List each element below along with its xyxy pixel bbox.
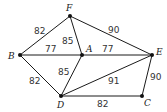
edge-b-d [20, 55, 61, 96]
vertex-label-c: C [144, 98, 151, 108]
edge-weight-f-a: 85 [62, 36, 73, 46]
edge-weight-d-e: 91 [108, 76, 119, 86]
edge-weight-d-c: 82 [97, 99, 108, 109]
edge-d-e [61, 55, 152, 96]
edge-weight-a-e: 77 [102, 44, 113, 54]
edge-weight-e-c: 90 [150, 72, 162, 82]
edge-weight-f-e: 90 [108, 25, 120, 35]
edge-weight-f-b: 82 [34, 26, 45, 36]
vertex-e [150, 53, 154, 57]
vertex-f [68, 14, 72, 18]
vertex-label-e: E [155, 47, 163, 57]
vertex-label-f: F [65, 3, 73, 13]
edge-weight-b-d: 82 [29, 76, 40, 86]
vertex-b [18, 53, 22, 57]
edge-weight-b-a: 77 [45, 44, 56, 54]
vertex-label-a: A [85, 44, 93, 54]
vertex-d [59, 94, 63, 98]
vertex-label-d: D [56, 100, 64, 110]
node-labels-layer: FBAEDC [7, 3, 163, 110]
weighted-graph-diagram: 82859077778285919082 FBAEDC [0, 0, 167, 112]
vertex-a [80, 53, 84, 57]
vertex-label-b: B [7, 51, 15, 61]
edge-weight-a-d: 85 [58, 67, 69, 77]
